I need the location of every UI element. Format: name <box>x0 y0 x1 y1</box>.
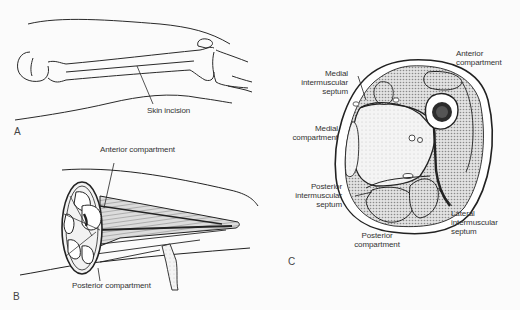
anatomy-figure: Skin incision A Anterior compartment Pos… <box>0 0 520 310</box>
panel-letter-c: C <box>288 256 295 267</box>
figure-drawing <box>0 0 520 310</box>
panel-a-drawing <box>15 19 252 120</box>
label-medial-compartment: Medial compartment <box>286 124 338 142</box>
label-skin-incision: Skin incision <box>147 106 190 115</box>
label-posterior-compartment-c: Posterior compartment <box>344 231 410 249</box>
panel-letter-b: B <box>13 291 20 302</box>
label-anterior-compartment-b: Anterior compartment <box>100 145 175 154</box>
label-posterior-compartment-b: Posterior compartment <box>72 281 151 290</box>
label-medial-intermuscular-septum: Medial intermuscular septum <box>286 69 348 96</box>
label-anterior-compartment-c: Anterior compartment <box>456 49 502 67</box>
label-posterior-intermuscular-septum: Posterior intermuscular septum <box>284 182 342 209</box>
label-lateral-intermuscular-septum: Lateral intermuscular septum <box>451 209 498 236</box>
panel-c-drawing <box>335 60 492 234</box>
panel-letter-a: A <box>14 126 21 137</box>
panel-b-drawing <box>20 163 258 290</box>
